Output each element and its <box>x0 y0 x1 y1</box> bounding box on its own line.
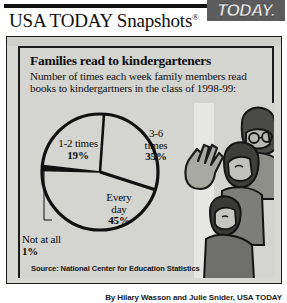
masthead-title-text: USA TODAY Snapshots <box>9 10 192 31</box>
usa-today-logo-badge: TODAY. <box>207 0 285 21</box>
chart-headline: Families read to kindergarteners <box>30 53 211 69</box>
chart-credit: By Hilary Wasson and Julie Snider, USA T… <box>105 293 282 302</box>
pie-label-every-day: Every day 45% <box>90 192 148 227</box>
pie-label-every-day-value: 45% <box>90 215 148 227</box>
illustration-svg <box>180 103 274 278</box>
pie-label-3-6-times-text-1: 3-6 <box>130 128 182 140</box>
chart-panel: Families read to kindergarteners Number … <box>18 46 274 278</box>
pie-label-not-at-all-text: Not at all <box>22 234 92 246</box>
card-bevel <box>7 37 281 46</box>
pie-label-3-6-times-value: 35% <box>130 151 182 163</box>
pie-label-not-at-all-value: 1% <box>22 246 92 258</box>
pie-label-not-at-all: Not at all 1% <box>22 234 92 257</box>
pie-chart: 1-2 times 19% 3-6 times 35% Every day 45… <box>20 110 274 278</box>
pie-label-1-2-times-text: 1-2 times <box>42 138 114 150</box>
pie-label-3-6-times: 3-6 times 35% <box>130 128 182 163</box>
usa-today-logo-text: TODAY. <box>207 1 285 20</box>
usa-today-snapshot: TODAY. USA TODAY Snapshots® Families rea… <box>0 0 287 303</box>
pie-label-every-day-text-1: Every <box>90 192 148 204</box>
registered-mark: ® <box>192 12 199 22</box>
chart-source: Source: National Center for Education St… <box>31 264 200 273</box>
page-title: USA TODAY Snapshots® <box>9 10 199 32</box>
pie-label-1-2-times: 1-2 times 19% <box>42 138 114 161</box>
family-reading-illustration <box>180 103 274 278</box>
pie-label-1-2-times-value: 19% <box>42 150 114 162</box>
snapshot-card: Families read to kindergarteners Number … <box>6 36 282 284</box>
chart-deck: Number of times each week family members… <box>30 70 255 95</box>
